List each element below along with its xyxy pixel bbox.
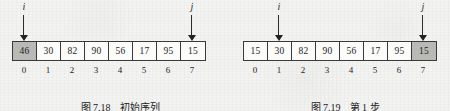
array-cell: 15 — [244, 42, 268, 60]
array-cell: 90 — [85, 42, 109, 60]
index-label: 1 — [36, 63, 60, 77]
array-row: 46 30 82 90 56 17 95 15 — [12, 41, 206, 61]
index-label: 3 — [84, 63, 108, 77]
pointer-i-label: i — [13, 2, 35, 12]
index-label: 1 — [267, 63, 291, 77]
figure-caption-number: 图 7.19 — [311, 102, 341, 111]
pointer-i: i — [268, 4, 290, 42]
array-cell: 30 — [268, 42, 292, 60]
pointer-j-label: j — [412, 2, 434, 12]
array-cell: 30 — [37, 42, 61, 60]
index-label: 4 — [108, 63, 132, 77]
array-cell: 95 — [157, 42, 181, 60]
figure-7-19: i j 15 30 82 90 56 17 95 15 0 1 2 3 4 5 … — [225, 0, 450, 111]
scanned-figure-page: i j 46 30 82 90 56 17 95 15 0 1 2 3 4 5 … — [0, 0, 450, 111]
pointer-j-shaft — [422, 15, 423, 37]
index-label: 7 — [411, 63, 435, 77]
figure-7-18: i j 46 30 82 90 56 17 95 15 0 1 2 3 4 5 … — [0, 0, 225, 111]
pointer-i-shaft — [278, 15, 279, 37]
array-cell: 17 — [133, 42, 157, 60]
index-row: 0 1 2 3 4 5 6 7 — [12, 63, 204, 77]
pointer-i-shaft — [23, 15, 24, 37]
array-cell: 82 — [292, 42, 316, 60]
array-cell: 56 — [109, 42, 133, 60]
index-label: 4 — [339, 63, 363, 77]
array-cell: 46 — [13, 42, 37, 60]
pointer-j: j — [412, 4, 434, 42]
pointer-j-label: j — [181, 2, 203, 12]
index-label: 6 — [387, 63, 411, 77]
index-label: 5 — [132, 63, 156, 77]
pointer-j: j — [181, 4, 203, 42]
figure-caption: 图 7.18初始序列 — [0, 88, 225, 111]
index-label: 2 — [60, 63, 84, 77]
array-cell: 17 — [364, 42, 388, 60]
figure-caption: 图 7.19第 1 步 — [225, 88, 450, 111]
array-cell: 90 — [316, 42, 340, 60]
array-cell: 95 — [388, 42, 412, 60]
index-label: 2 — [291, 63, 315, 77]
pointer-j-shaft — [191, 15, 192, 37]
figure-caption-text: 第 1 步 — [350, 102, 380, 111]
figure-caption-number: 图 7.18 — [81, 102, 111, 111]
array-cell: 56 — [340, 42, 364, 60]
index-label: 7 — [180, 63, 204, 77]
index-label: 3 — [315, 63, 339, 77]
pointer-i: i — [13, 4, 35, 42]
figure-caption-text: 初始序列 — [120, 102, 160, 111]
pointer-i-label: i — [268, 2, 290, 12]
array-cell: 15 — [181, 42, 205, 60]
array-cell: 15 — [412, 42, 436, 60]
index-label: 5 — [363, 63, 387, 77]
index-label: 0 — [12, 63, 36, 77]
index-label: 6 — [156, 63, 180, 77]
array-row: 15 30 82 90 56 17 95 15 — [243, 41, 437, 61]
array-cell: 82 — [61, 42, 85, 60]
index-label: 0 — [243, 63, 267, 77]
index-row: 0 1 2 3 4 5 6 7 — [243, 63, 435, 77]
